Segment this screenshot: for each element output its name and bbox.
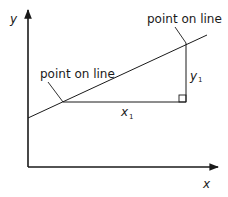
x-axis-label: x: [202, 177, 211, 191]
rise-label-subscript: 1: [198, 76, 202, 84]
rise-label: y: [189, 69, 198, 83]
leader-line-point-2: [175, 27, 186, 43]
right-angle-marker: [179, 95, 186, 102]
leader-line-point-1: [48, 82, 63, 102]
point-label-1: point on line: [40, 67, 115, 81]
run-label-subscript: 1: [129, 113, 133, 121]
point-label-2: point on line: [147, 12, 222, 26]
run-label: x: [120, 105, 129, 119]
slope-diagram: y x point on line point on line x 1 y 1: [0, 0, 228, 197]
y-axis-label: y: [9, 12, 18, 26]
